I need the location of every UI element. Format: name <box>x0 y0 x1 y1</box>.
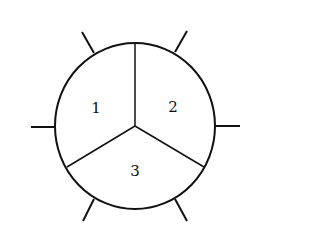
region-label-1: 1 <box>91 99 101 117</box>
region-label-2: 2 <box>168 98 178 116</box>
tick-lower-right <box>175 199 187 221</box>
region-label-3: 3 <box>130 162 140 180</box>
divider-lower-left <box>67 126 135 167</box>
tick-lower-left <box>83 199 94 221</box>
tick-upper-right <box>175 31 187 52</box>
divider-lower-right <box>135 126 204 167</box>
partitioned-circle-diagram: 1 2 3 <box>0 0 333 231</box>
tick-upper-left <box>82 32 94 53</box>
